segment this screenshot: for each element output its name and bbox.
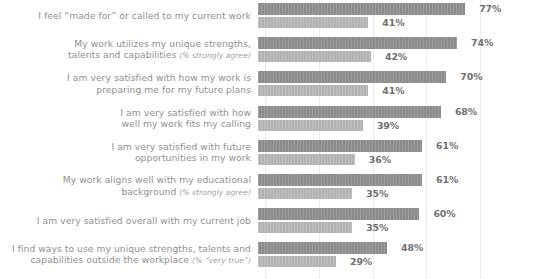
category-qualifier: (% “very true”) bbox=[192, 256, 251, 265]
bar-value-secondary: 41% bbox=[382, 17, 404, 28]
category-qualifier: (% strongly agree) bbox=[179, 51, 251, 60]
bar-group-row: I feel “made for” or called to my curren… bbox=[0, 2, 533, 29]
bar-group-row: I find ways to use my unique strengths, … bbox=[0, 241, 533, 268]
bar-primary bbox=[258, 37, 457, 49]
bar-group-row: I am very satisfied overall with my curr… bbox=[0, 207, 533, 234]
bar-value-primary: 68% bbox=[455, 106, 477, 118]
bar-secondary bbox=[258, 188, 352, 199]
bar-pair: 74%42% bbox=[258, 36, 526, 63]
bar-value-primary: 48% bbox=[401, 242, 423, 254]
category-label: I find ways to use my unique strengths, … bbox=[0, 243, 258, 267]
bar-value-primary: 60% bbox=[433, 208, 455, 220]
bar-value-primary: 77% bbox=[479, 3, 501, 15]
bar-pair: 48%29% bbox=[258, 241, 526, 268]
category-label: My work aligns well with my educationalb… bbox=[0, 174, 258, 198]
bar-primary bbox=[258, 140, 422, 152]
bar-value-secondary: 35% bbox=[366, 222, 388, 233]
bar-pair: 61%35% bbox=[258, 173, 526, 200]
horizontal-bar-chart: I feel “made for” or called to my curren… bbox=[0, 0, 533, 279]
category-label: I feel “made for” or called to my curren… bbox=[0, 10, 258, 22]
bar-pair: 70%41% bbox=[258, 70, 526, 97]
bar-value-secondary: 29% bbox=[350, 256, 372, 267]
bar-primary bbox=[258, 71, 446, 83]
category-qualifier: (% strongly agree) bbox=[179, 188, 251, 197]
bar-value-primary: 61% bbox=[436, 174, 458, 186]
bar-value-primary: 70% bbox=[460, 71, 482, 83]
category-label: My work utilizes my unique strengths,tal… bbox=[0, 38, 258, 62]
bar-value-secondary: 41% bbox=[382, 85, 404, 96]
bar-value-secondary: 35% bbox=[366, 188, 388, 199]
bar-secondary bbox=[258, 154, 355, 165]
bar-value-primary: 61% bbox=[436, 140, 458, 152]
bar-group-row: I am very satisfied with howwell my work… bbox=[0, 105, 533, 132]
bar-secondary bbox=[258, 120, 363, 131]
bar-pair: 77%41% bbox=[258, 2, 526, 29]
bar-value-secondary: 36% bbox=[369, 154, 391, 165]
bar-group-row: I am very satisfied with how my work isp… bbox=[0, 70, 533, 97]
bar-primary bbox=[258, 208, 419, 220]
bar-primary bbox=[258, 174, 422, 186]
bar-value-secondary: 39% bbox=[377, 120, 399, 131]
category-label: I am very satisfied with howwell my work… bbox=[0, 107, 258, 130]
bar-pair: 60%35% bbox=[258, 207, 526, 234]
bar-secondary bbox=[258, 51, 371, 62]
bar-secondary bbox=[258, 256, 336, 267]
bar-primary bbox=[258, 242, 387, 254]
bar-primary bbox=[258, 106, 441, 118]
bar-secondary bbox=[258, 85, 368, 96]
bar-pair: 61%36% bbox=[258, 139, 526, 166]
bar-group-row: I am very satisfied with futureopportuni… bbox=[0, 139, 533, 166]
bar-group-row: My work utilizes my unique strengths,tal… bbox=[0, 36, 533, 63]
bar-value-primary: 74% bbox=[471, 37, 493, 49]
category-label: I am very satisfied with how my work isp… bbox=[0, 72, 258, 95]
bar-primary bbox=[258, 3, 465, 15]
bar-pair: 68%39% bbox=[258, 105, 526, 132]
bar-value-secondary: 42% bbox=[385, 51, 407, 62]
category-label: I am very satisfied overall with my curr… bbox=[0, 215, 258, 227]
bar-group-row: My work aligns well with my educationalb… bbox=[0, 173, 533, 200]
bar-secondary bbox=[258, 222, 352, 233]
category-label: I am very satisfied with futureopportuni… bbox=[0, 141, 258, 164]
bar-secondary bbox=[258, 17, 368, 28]
